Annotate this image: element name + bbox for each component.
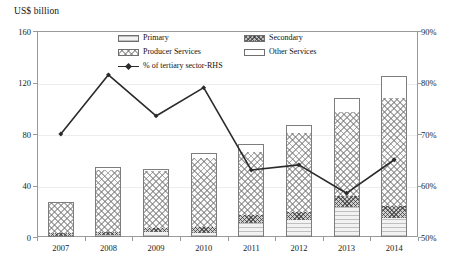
bar-segment-primary [191,233,217,237]
x-tick-mark [323,237,324,241]
legend-item-primary[interactable]: Primary [118,34,244,42]
y-tick-label: 40 [1,181,31,191]
bar-segment-other-services [334,98,360,112]
bar-segment-secondary [191,227,217,233]
x-tick-mark [418,237,419,241]
legend-swatch-secondary-icon [244,35,265,42]
x-tick-mark [370,237,371,241]
y2-tick-mark [418,134,422,135]
x-tick-mark [228,237,229,241]
bar-segment-secondary [48,233,74,236]
y2-tick-label: 90% [421,27,451,37]
y2-tick-label: 60% [421,181,451,191]
bar-2009 [143,169,169,237]
bar-segment-other-services [381,76,407,98]
x-tick-label: 2014 [364,243,424,253]
x-tick-mark [37,237,38,241]
y-tick-label: 0 [1,233,31,243]
bar-2010 [191,153,217,237]
legend-swatch-primary-icon [118,35,139,42]
x-tick-mark [275,237,276,241]
y-tick-label: 80 [1,130,31,140]
bar-2012 [286,125,312,237]
bar-segment-producer-services [286,133,312,212]
chart-legend: Primary Secondary Producer Services Othe… [118,31,370,73]
legend-swatch-producer-services-icon [118,49,139,56]
legend-label: Producer Services [143,48,201,56]
bar-2008 [95,167,121,237]
y2-tick-label: 50% [421,233,451,243]
bar-segment-primary [95,235,121,237]
bar-segment-other-services [238,144,264,152]
bar-segment-secondary [286,212,312,220]
y-tick-label: 120 [1,78,31,88]
y-tick-label: 160 [1,27,31,37]
bar-segment-primary [143,232,169,237]
legend-item-secondary[interactable]: Secondary [244,34,370,42]
bar-2007 [48,202,74,237]
y2-tick-mark [418,83,422,84]
legend-row: Primary Secondary [118,31,370,45]
bar-segment-secondary [143,228,169,232]
bar-segment-producer-services [143,171,169,228]
legend-item-other-services[interactable]: Other Services [244,48,370,56]
bar-segment-primary [334,207,360,237]
y-axis-title: US$ billion [14,6,59,16]
legend-item-tertiary-percent[interactable]: % of tertiary sector-RHS [118,62,298,70]
legend-row: Producer Services Other Services [118,45,370,59]
bar-segment-producer-services [238,152,264,215]
legend-line-marker-icon [118,63,139,70]
bar-segment-producer-services [191,158,217,226]
legend-row: % of tertiary sector-RHS [118,59,370,73]
bar-segment-primary [48,236,74,237]
bar-segment-producer-services [48,202,74,232]
bar-segment-primary [238,223,264,237]
bar-segment-secondary [95,232,121,235]
bar-segment-producer-services [381,98,407,206]
legend-swatch-other-services-icon [244,49,265,56]
y2-tick-label: 70% [421,130,451,140]
x-tick-mark [180,237,181,241]
bar-segment-primary [286,220,312,237]
bar-2011 [238,144,264,237]
bar-segment-other-services [286,125,312,133]
legend-label: Secondary [269,34,303,42]
bar-segment-producer-services [334,112,360,196]
bar-segment-other-services [191,153,217,158]
legend-label: Primary [143,34,169,42]
bar-segment-other-services [95,167,121,170]
chart-container: US$ billion 160 120 80 40 0 90% 80% 70% … [0,0,451,269]
legend-label: Other Services [269,48,316,56]
bar-segment-secondary [334,196,360,208]
y2-tick-mark [418,31,422,32]
bar-segment-other-services [143,169,169,172]
y2-tick-mark [418,186,422,187]
bar-2013 [334,98,360,237]
bar-segment-secondary [238,215,264,223]
x-tick-mark [132,237,133,241]
bar-2014 [381,76,407,237]
bar-segment-primary [381,218,407,237]
x-tick-mark [85,237,86,241]
bar-segment-producer-services [95,170,121,232]
y2-tick-label: 80% [421,78,451,88]
legend-label: % of tertiary sector-RHS [143,62,223,70]
legend-item-producer-services[interactable]: Producer Services [118,48,244,56]
bar-segment-secondary [381,206,407,218]
